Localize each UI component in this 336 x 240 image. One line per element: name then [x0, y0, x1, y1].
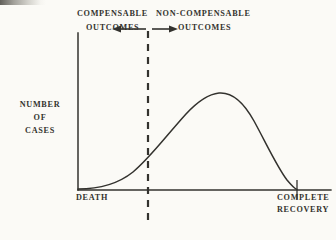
x-axis-label-death: DEATH [76, 194, 108, 203]
compensable-outcomes-label-line1: COMPENSABLE [77, 10, 148, 19]
non-compensable-outcomes-label-line2: OUTCOMES [178, 24, 231, 33]
y-axis-label-line1: NUMBER [6, 98, 74, 111]
y-axis-label: NUMBER OF CASES [6, 98, 74, 137]
x-axis-label-complete-recovery-line1: COMPLETE [277, 194, 329, 203]
distribution-curve [78, 93, 297, 190]
figure-container: COMPENSABLE OUTCOMES NON-COMPENSABLE OUT… [0, 0, 336, 240]
non-compensable-outcomes-label-line1: NON-COMPENSABLE [156, 10, 251, 19]
x-axis-label-complete-recovery-line2: RECOVERY [277, 206, 329, 215]
right-arrow-icon [152, 26, 178, 33]
compensable-outcomes-label-line2: OUTCOMES [86, 24, 139, 33]
y-axis-label-line2: OF [6, 111, 74, 124]
y-axis-label-line3: CASES [6, 124, 74, 137]
